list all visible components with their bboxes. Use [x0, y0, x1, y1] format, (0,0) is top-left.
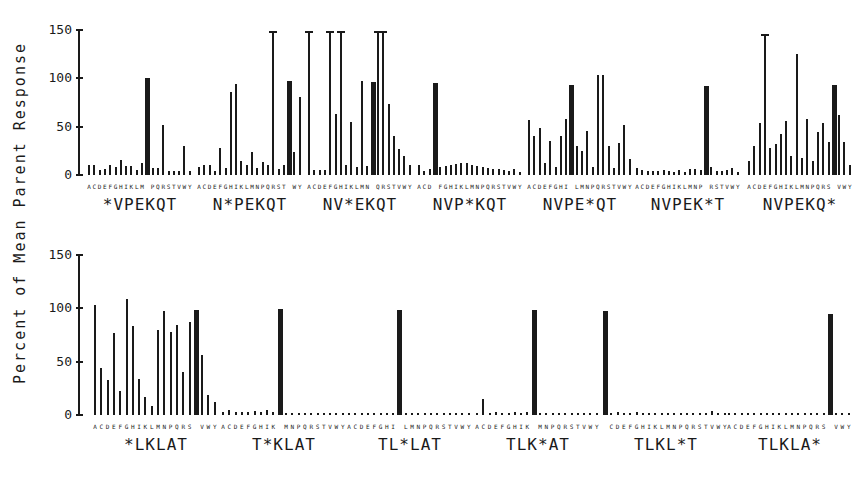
bar-M — [801, 158, 803, 175]
x-label-M: M — [789, 423, 795, 430]
bar-F — [109, 165, 111, 175]
bar-W — [589, 413, 591, 415]
bar-I — [648, 413, 650, 415]
bar-G — [380, 413, 382, 415]
x-label-I: I — [136, 423, 142, 430]
bar-A — [198, 167, 200, 175]
x-label-L: L — [783, 423, 789, 430]
bar-M — [581, 151, 583, 175]
bar-M — [411, 413, 413, 415]
x-label-H: H — [512, 423, 518, 430]
bar-N — [145, 78, 150, 175]
bar-cap — [269, 31, 277, 33]
x-label-Q: Q — [556, 423, 562, 430]
x-label-Y: Y — [466, 423, 472, 430]
bar-K — [272, 412, 274, 415]
bar-S — [828, 142, 830, 175]
bar-W — [623, 125, 625, 175]
x-label-F: F — [499, 423, 505, 430]
bar-C — [93, 165, 95, 175]
bar-Y — [596, 413, 598, 415]
bar-H — [230, 92, 232, 175]
bar-T — [503, 170, 505, 175]
x-label-S: S — [697, 423, 703, 430]
y-tick — [76, 174, 83, 176]
bar-K — [144, 397, 146, 415]
bar-W — [293, 152, 295, 175]
x-label-D: D — [739, 423, 745, 430]
y-tick — [76, 414, 83, 416]
y-tick-label: 0 — [38, 408, 72, 421]
bar-cap — [379, 31, 387, 33]
x-label-H: H — [384, 423, 390, 430]
x-label-D: D — [233, 423, 239, 430]
bar-F — [247, 412, 249, 415]
bar-D — [99, 170, 101, 175]
x-label-S: S — [441, 423, 447, 430]
bar-E — [113, 333, 115, 415]
bar-L — [785, 413, 787, 415]
x-label-G: G — [506, 423, 512, 430]
bar-L — [246, 165, 248, 175]
bar-L — [576, 146, 578, 175]
bar-L — [661, 413, 663, 415]
y-axis-line-row2 — [78, 255, 80, 416]
bar-M — [141, 163, 143, 175]
y-tick-label: 50 — [38, 355, 72, 368]
bar-W — [403, 156, 405, 175]
bar-S — [608, 146, 610, 175]
bar-Q — [597, 75, 599, 175]
x-label-F: F — [751, 423, 757, 430]
x-label-V: V — [327, 423, 333, 430]
x-label-R: R — [562, 423, 568, 430]
bar-P — [298, 413, 300, 415]
bar-C — [203, 165, 205, 175]
bar-Q — [704, 86, 709, 175]
x-label-M: M — [155, 423, 161, 430]
bar-M — [539, 413, 541, 415]
bar-A — [308, 31, 310, 175]
x-label-G: G — [378, 423, 384, 430]
bar-A — [603, 311, 608, 415]
x-label-I: I — [646, 423, 652, 430]
bar-V — [838, 115, 840, 175]
bar-F — [501, 413, 503, 415]
bar-C — [313, 170, 315, 175]
x-label-H: H — [130, 423, 136, 430]
x-label-Y: Y — [594, 423, 600, 430]
bar-F — [549, 141, 551, 175]
x-label-Y: Y — [627, 183, 633, 190]
bar-Y — [214, 402, 216, 415]
bar-G — [254, 411, 256, 415]
bar-H — [642, 413, 644, 415]
bar-E — [241, 412, 243, 415]
bar-P — [424, 413, 426, 415]
bar-S — [823, 413, 825, 415]
bar-I — [673, 172, 675, 175]
bar-P — [262, 162, 264, 175]
x-label-R: R — [690, 423, 696, 430]
bar-L — [466, 163, 468, 175]
bar-F — [753, 413, 755, 415]
bar-D — [235, 412, 237, 415]
x-label-W: W — [715, 423, 721, 430]
bar-L — [532, 310, 537, 415]
x-label-K: K — [776, 423, 782, 430]
bar-R — [822, 123, 824, 175]
bar-S — [443, 413, 445, 415]
bar-I — [565, 119, 567, 175]
x-label-A: A — [346, 423, 352, 430]
x-label-Y: Y — [847, 183, 853, 190]
x-label-V: V — [833, 423, 839, 430]
x-label-P: P — [802, 423, 808, 430]
bar-Q — [558, 413, 560, 415]
bar-L — [278, 309, 283, 415]
bar-A — [728, 413, 730, 415]
y-tick-label: 50 — [38, 120, 72, 133]
bar-C — [533, 136, 535, 175]
x-label-M: M — [139, 183, 145, 190]
bar-K — [526, 412, 528, 415]
bar-E — [104, 169, 106, 175]
bar-S — [716, 171, 718, 175]
x-label-C: C — [608, 423, 614, 430]
